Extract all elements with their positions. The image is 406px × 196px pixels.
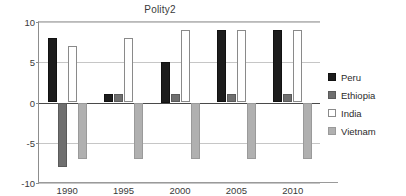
legend-swatch-india-icon (328, 109, 336, 117)
bar-india-2000 (181, 30, 190, 102)
bar-peru-2000 (161, 62, 170, 102)
legend-item-ethiopia[interactable]: Ethiopia (328, 86, 406, 104)
legend-item-peru[interactable]: Peru (328, 68, 406, 86)
legend-swatch-ethiopia-icon (328, 91, 336, 99)
bar-peru-1995 (104, 94, 113, 102)
legend-item-vietnam[interactable]: Vietnam (328, 122, 406, 140)
bar-india-1995 (124, 38, 133, 102)
bar-peru-1990 (48, 38, 57, 102)
gridline (39, 22, 320, 23)
x-axis-tick-label: 2005 (226, 185, 247, 196)
x-axis-tick-label: 1995 (113, 185, 134, 196)
bar-vietnam-2010 (303, 103, 312, 159)
y-axis-tick-mark (36, 143, 39, 144)
legend-swatch-vietnam-icon (328, 127, 336, 135)
y-axis-tick-label: -5 (27, 137, 35, 148)
plot-area: 1050-5-1019901995200020052010 (38, 21, 320, 182)
gridline (39, 183, 320, 184)
bar-vietnam-1995 (134, 103, 143, 159)
axis-bottom-rule (38, 182, 338, 183)
plot-inner: 1050-5-1019901995200020052010 (39, 22, 320, 182)
y-axis-tick-mark (36, 22, 39, 23)
y-axis-tick-mark (36, 103, 39, 104)
y-axis-tick-label: 5 (30, 57, 35, 68)
bar-india-1990 (68, 46, 77, 102)
x-axis-tick-label: 2010 (282, 185, 303, 196)
legend-label-vietnam: Vietnam (341, 126, 376, 137)
bar-ethiopia-2000 (171, 94, 180, 102)
bar-ethiopia-2010 (283, 94, 292, 102)
bar-peru-2005 (217, 30, 226, 102)
bar-vietnam-1990 (78, 103, 87, 159)
bar-ethiopia-1995 (114, 94, 123, 102)
chart-container: Polity2 1050-5-1019901995200020052010 Pe… (0, 0, 406, 196)
bar-ethiopia-1990 (58, 103, 67, 167)
legend-label-india: India (341, 108, 362, 119)
bar-india-2010 (293, 30, 302, 102)
x-axis-tick-label: 1990 (57, 185, 78, 196)
x-axis-tick-label: 2000 (169, 185, 190, 196)
legend-label-peru: Peru (341, 72, 361, 83)
bar-vietnam-2000 (191, 103, 200, 159)
bar-peru-2010 (273, 30, 282, 102)
y-axis-tick-label: 10 (24, 17, 35, 28)
bar-india-2005 (237, 30, 246, 102)
y-axis-tick-mark (36, 183, 39, 184)
bar-ethiopia-2005 (227, 94, 236, 102)
y-axis-tick-mark (36, 62, 39, 63)
chart-legend: PeruEthiopiaIndiaVietnam (328, 68, 406, 140)
legend-label-ethiopia: Ethiopia (341, 90, 375, 101)
chart-title: Polity2 (0, 4, 320, 15)
bar-vietnam-2005 (247, 103, 256, 159)
legend-item-india[interactable]: India (328, 104, 406, 122)
y-axis-tick-label: 0 (30, 97, 35, 108)
legend-swatch-peru-icon (328, 73, 336, 81)
y-axis-tick-label: -10 (21, 178, 35, 189)
